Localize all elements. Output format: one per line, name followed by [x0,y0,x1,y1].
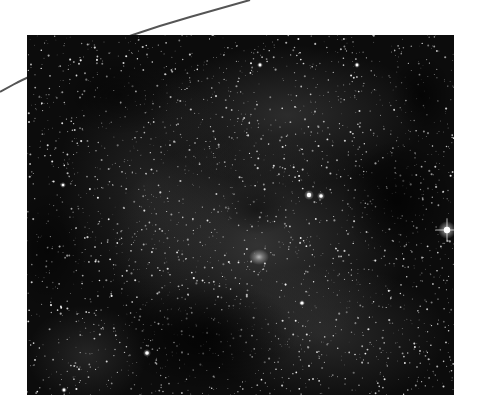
dust-lane [117,280,297,390]
dust-lane [222,185,292,235]
starfield-svg [27,35,454,395]
bright-star-lower-left [143,349,151,357]
bright-star-bottom [61,387,67,393]
central-nebula-patch [249,249,269,265]
bright-star-pair-b [317,192,325,200]
starfield-photo [27,35,454,395]
bright-star-left [60,182,66,188]
bright-star-pair-a [304,190,314,200]
bright-star-upper-right [354,62,360,68]
dust-lane [392,55,452,135]
dust-lane [57,55,177,135]
canvas [0,0,479,420]
bright-star-upper-mid [257,62,263,68]
bright-star-lower-right [299,300,305,306]
dust-lane [342,140,452,260]
